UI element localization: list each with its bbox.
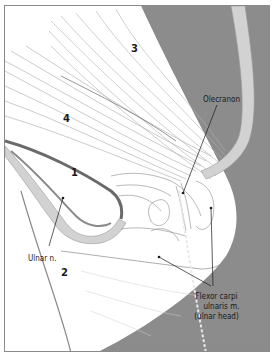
label-ulnar-nerve: Ulnar n. [28, 253, 56, 263]
numeral-1: 1 [71, 168, 78, 178]
numeral-4: 4 [63, 114, 70, 124]
label-fcu-line-3: (ulnar head) [191, 311, 242, 321]
label-fcu-line-1: Flexor carpi [191, 291, 242, 301]
numeral-3: 3 [131, 44, 138, 54]
label-flexor-carpi-ulnaris: Flexor carpi ulnaris m. (ulnar head) [191, 291, 251, 321]
label-fcu-line-2: ulnaris m. [196, 301, 247, 311]
label-olecranon: Olecranon [203, 94, 240, 104]
anatomy-figure-frame: 3 4 1 2 Olecranon Ulnar n. Flexor carpi … [4, 5, 270, 352]
numeral-2: 2 [61, 268, 68, 278]
